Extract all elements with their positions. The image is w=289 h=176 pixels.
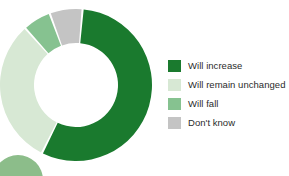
corner-decoration-circle [0,155,43,176]
legend-swatch-will-fall [168,98,181,110]
legend-item-will-increase[interactable]: Will increase [168,60,289,72]
legend-swatch-will-remain-unchanged [168,79,181,91]
legend-item-will-fall[interactable]: Will fall [168,98,289,110]
donut-slice-group [0,9,152,161]
legend-item-dont-know[interactable]: Don't know [168,117,289,129]
donut-chart-figure: Will increase Will remain unchanged Will… [0,0,289,176]
legend-label-will-remain-unchanged: Will remain unchanged [188,79,285,91]
legend-label-will-increase: Will increase [188,60,242,72]
legend-label-will-fall: Will fall [188,98,218,110]
legend-swatch-dont-know [168,117,181,129]
legend-item-will-remain-unchanged[interactable]: Will remain unchanged [168,79,289,91]
chart-legend: Will increase Will remain unchanged Will… [168,60,289,129]
legend-swatch-will-increase [168,60,181,72]
legend-label-dont-know: Don't know [188,117,235,129]
